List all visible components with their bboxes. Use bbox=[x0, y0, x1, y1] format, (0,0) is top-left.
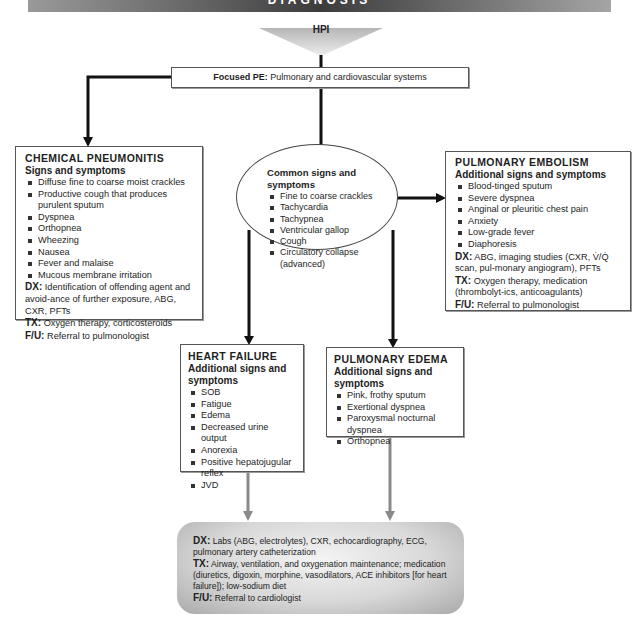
tx-label: TX: bbox=[455, 275, 471, 286]
list-item: Tachypnea bbox=[267, 214, 397, 225]
common-signs-oval: Common signs and symptoms Fine to coarse… bbox=[236, 144, 398, 250]
list-item: Exertional dyspnea bbox=[334, 402, 456, 414]
pe-fu: F/U: Referral to pulmonologist bbox=[455, 299, 621, 312]
list-item: Productive cough that produces purulent … bbox=[25, 189, 193, 212]
list-item: SOB bbox=[188, 387, 296, 399]
edema-title: PULMONARY EDEMA bbox=[334, 353, 456, 366]
common-title: Common signs and symptoms bbox=[267, 167, 397, 191]
list-item: Anginal or pleuritic chest pain bbox=[455, 204, 621, 216]
tx-text: Oxygen therapy, medication (thrombolyt-i… bbox=[455, 276, 587, 298]
pulmonary-embolism-box: PULMONARY EMBOLISM Additional signs and … bbox=[445, 151, 631, 311]
chem-symptom-list: Diffuse fine to coarse moist crackles Pr… bbox=[25, 177, 193, 281]
hf-subtitle: Additional signs and symptoms bbox=[188, 363, 296, 387]
chem-title: CHEMICAL PNEUMONITIS bbox=[25, 152, 193, 165]
list-item: Positive hepatojugular reflex bbox=[188, 457, 296, 480]
list-item: Diffuse fine to coarse moist crackles bbox=[25, 177, 193, 189]
list-item: Blood-tinged sputum bbox=[455, 181, 621, 193]
final-tx: TX: Airway, ventilation, and oxygenation… bbox=[193, 558, 448, 592]
list-item: Fine to coarse crackles bbox=[267, 191, 397, 202]
hpi-label: HPI bbox=[260, 24, 382, 35]
dx-label: DX: bbox=[25, 281, 42, 292]
dx-label: DX: bbox=[193, 535, 210, 546]
list-item: Low-grade fever bbox=[455, 227, 621, 239]
pe-subtitle: Additional signs and symptoms bbox=[455, 169, 621, 181]
shared-management-box: DX: Labs (ABG, electrolytes), CXR, echoc… bbox=[177, 522, 464, 614]
fu-text: Referral to pulmonologist bbox=[47, 331, 149, 341]
dx-text: ABG, imaging studies (CXR, V̇/Q̇ scan, p… bbox=[455, 252, 609, 274]
list-item: Pink, frothy sputum bbox=[334, 390, 456, 402]
fu-label: F/U: bbox=[25, 330, 44, 341]
list-item: Severe dyspnea bbox=[455, 193, 621, 205]
tx-label: TX: bbox=[25, 317, 41, 328]
pe-tx: TX: Oxygen therapy, medication (thrombol… bbox=[455, 275, 621, 299]
list-item: Tachycardia bbox=[267, 202, 397, 213]
list-item: Decreased urine output bbox=[188, 422, 296, 445]
list-item: Orthopnea bbox=[334, 436, 456, 448]
focused-pe-box: Focused PE: Pulmonary and cardiovascular… bbox=[171, 67, 469, 88]
tx-text: Airway, ventilation, and oxygenation mai… bbox=[193, 559, 447, 591]
chem-tx: TX: Oxygen therapy, corticosteroids bbox=[25, 317, 193, 330]
final-fu: F/U: Referral to cardiologist bbox=[193, 592, 448, 604]
list-item: Circulatory collapse (advanced) bbox=[267, 247, 397, 270]
list-item: Ventricular gallop bbox=[267, 225, 397, 236]
list-item: Dyspnea bbox=[25, 212, 193, 224]
list-item: JVD bbox=[188, 480, 296, 492]
list-item: Fever and malaise bbox=[25, 258, 193, 270]
list-item: Diaphoresis bbox=[455, 239, 621, 251]
fu-label: F/U: bbox=[193, 592, 212, 603]
fu-text: Referral to cardiologist bbox=[215, 593, 301, 603]
chem-dx: DX: Identification of offending agent an… bbox=[25, 281, 193, 317]
pe-dx: DX: ABG, imaging studies (CXR, V̇/Q̇ sca… bbox=[455, 251, 621, 275]
tx-text: Oxygen therapy, corticosteroids bbox=[44, 318, 173, 328]
list-item: Mucous membrane irritation bbox=[25, 270, 193, 282]
edema-subtitle: Additional signs and symptoms bbox=[334, 366, 456, 390]
list-item: Cough bbox=[267, 236, 397, 247]
list-item: Edema bbox=[188, 410, 296, 422]
hf-symptom-list: SOB Fatigue Edema Decreased urine output… bbox=[188, 387, 296, 491]
dx-text: Identification of offending agent and av… bbox=[25, 282, 190, 315]
pe-title: PULMONARY EMBOLISM bbox=[455, 156, 621, 169]
list-item: Orthopnea bbox=[25, 223, 193, 235]
list-item: Anorexia bbox=[188, 445, 296, 457]
hf-title: HEART FAILURE bbox=[188, 350, 296, 363]
pe-symptom-list: Blood-tinged sputum Severe dyspnea Angin… bbox=[455, 181, 621, 251]
focused-pe-text: Pulmonary and cardiovascular systems bbox=[270, 72, 427, 82]
list-item: Wheezing bbox=[25, 235, 193, 247]
edema-symptom-list: Pink, frothy sputum Exertional dyspnea P… bbox=[334, 390, 456, 448]
chem-subtitle: Signs and symptoms bbox=[25, 165, 193, 177]
list-item: Fatigue bbox=[188, 399, 296, 411]
pulmonary-edema-box: PULMONARY EDEMA Additional signs and sym… bbox=[326, 347, 464, 437]
dx-label: DX: bbox=[455, 251, 472, 262]
tx-label: TX: bbox=[193, 558, 209, 569]
heart-failure-box: HEART FAILURE Additional signs and sympt… bbox=[180, 344, 304, 472]
chemical-pneumonitis-box: CHEMICAL PNEUMONITIS Signs and symptoms … bbox=[15, 146, 203, 320]
list-item: Anxiety bbox=[455, 216, 621, 228]
final-dx: DX: Labs (ABG, electrolytes), CXR, echoc… bbox=[193, 535, 448, 558]
list-item: Nausea bbox=[25, 247, 193, 259]
dx-text: Labs (ABG, electrolytes), CXR, echocardi… bbox=[193, 536, 427, 557]
common-symptom-list: Fine to coarse crackles Tachycardia Tach… bbox=[267, 191, 397, 270]
list-item: Paroxysmal nocturnal dyspnea bbox=[334, 413, 456, 436]
chem-fu: F/U: Referral to pulmonologist bbox=[25, 330, 193, 343]
fu-label: F/U: bbox=[455, 299, 474, 310]
focused-pe-label: Focused PE: bbox=[213, 72, 268, 82]
fu-text: Referral to pulmonologist bbox=[477, 300, 579, 310]
